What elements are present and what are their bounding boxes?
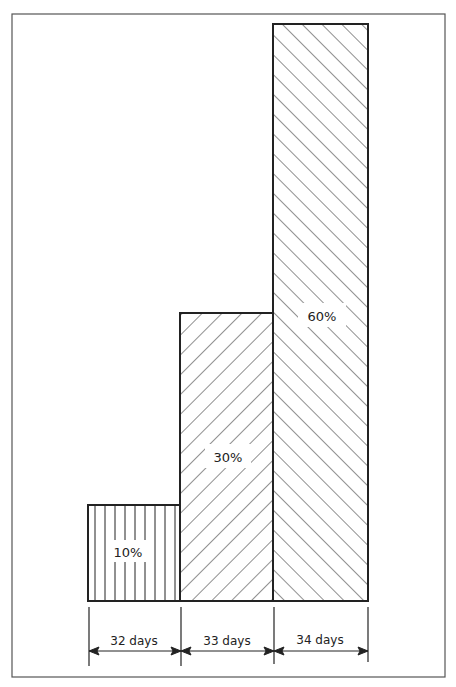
category-label-2: 33 days (203, 634, 250, 648)
dimension-arrows (89, 647, 368, 655)
bar-1-value-label: 10% (114, 545, 143, 560)
category-label-3: 34 days (296, 633, 343, 647)
bar-3-value-label: 60% (308, 309, 337, 324)
category-label-1: 32 days (110, 634, 157, 648)
chart-canvas: 10% 30% 60% 32 days 33 days 34 days (0, 0, 456, 687)
bar-2-value-label: 30% (214, 450, 243, 465)
